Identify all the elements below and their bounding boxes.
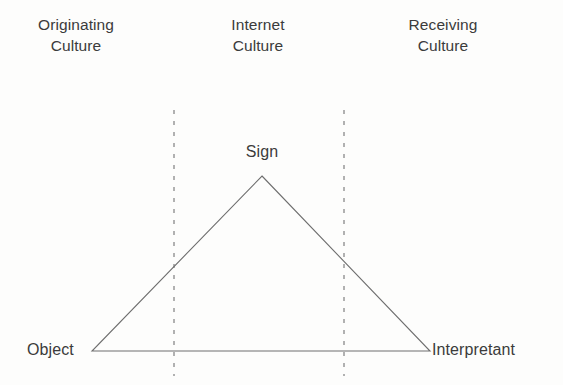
- node-label-sign: Sign: [246, 143, 278, 161]
- semiotic-triangle-figure: Originating Culture Internet Culture Rec…: [0, 0, 563, 385]
- semiotic-triangle-outline: [92, 176, 430, 351]
- node-label-object: Object: [27, 341, 74, 359]
- diagram-canvas: [0, 0, 563, 385]
- node-label-interpretant: Interpretant: [432, 341, 515, 359]
